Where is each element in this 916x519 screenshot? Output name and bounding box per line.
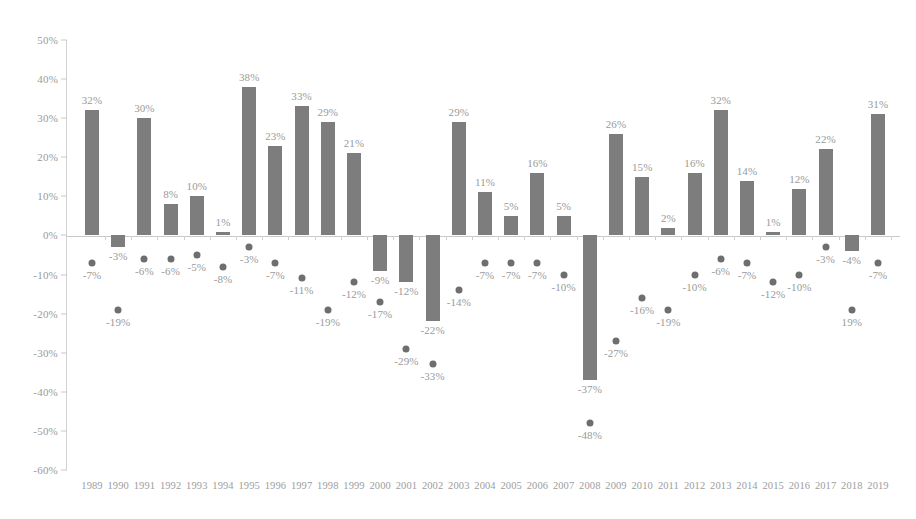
bar-label-1992: 8% <box>163 189 178 200</box>
y-axis-tick-label: -60% <box>33 465 58 476</box>
x-axis-tick-label-2011: 2011 <box>658 480 679 491</box>
bar-2008 <box>583 235 597 380</box>
x-axis-tick-mark <box>839 236 840 240</box>
x-axis-tick-label-1995: 1995 <box>238 480 259 491</box>
bar-label-1994: 1% <box>216 217 231 228</box>
x-axis-tick-label-2012: 2012 <box>684 480 705 491</box>
dot-2005 <box>508 259 515 266</box>
x-axis-tick-label-2019: 2019 <box>867 480 888 491</box>
x-axis-tick-mark <box>341 236 342 240</box>
dot-2009 <box>613 338 620 345</box>
dot-2007 <box>560 271 567 278</box>
bar-label-1996: 23% <box>265 131 285 142</box>
bar-2001 <box>399 235 413 282</box>
bar-label-2013: 32% <box>711 95 731 106</box>
dot-label-2002: -33% <box>420 371 444 382</box>
plot-area <box>66 40 900 470</box>
y-axis-tick-label: -50% <box>33 425 58 436</box>
bar-label-2004: 11% <box>475 177 495 188</box>
bar-1997 <box>295 106 309 235</box>
dot-2012 <box>691 271 698 278</box>
x-axis-tick-mark <box>419 236 420 240</box>
dot-2001 <box>403 345 410 352</box>
x-axis-tick-label-1990: 1990 <box>107 480 128 491</box>
y-axis-tick-label: -30% <box>33 347 58 358</box>
bar-label-2000: -9% <box>371 275 390 286</box>
x-axis-tick-mark <box>524 236 525 240</box>
x-axis-tick-mark <box>550 236 551 240</box>
x-axis-tick-label-1997: 1997 <box>291 480 312 491</box>
bar-label-1998: 29% <box>318 107 338 118</box>
bar-label-2015: 1% <box>766 217 781 228</box>
y-axis-tick-mark <box>61 391 67 392</box>
y-axis-tick-mark <box>61 313 67 314</box>
x-axis-tick-mark <box>105 236 106 240</box>
y-axis-tick-mark <box>61 40 67 41</box>
x-axis-tick-label-1998: 1998 <box>317 480 338 491</box>
x-axis-tick-label-2009: 2009 <box>605 480 626 491</box>
y-axis-tick-mark <box>61 157 67 158</box>
chart-container: 50%40%30%20%10%0%-10%-20%-30%-40%-50%-60… <box>0 0 916 519</box>
dot-label-1990: -19% <box>106 317 130 328</box>
dot-1996 <box>272 259 279 266</box>
bar-1989 <box>85 110 99 235</box>
dot-2016 <box>796 271 803 278</box>
bar-label-1997: 33% <box>291 91 311 102</box>
x-axis-tick-label-1991: 1991 <box>134 480 155 491</box>
dot-2011 <box>665 306 672 313</box>
x-axis-tick-label-1994: 1994 <box>212 480 233 491</box>
x-axis-tick-mark <box>734 236 735 240</box>
x-axis-tick-label-2013: 2013 <box>710 480 731 491</box>
dot-label-2013: -6% <box>711 266 730 277</box>
dot-label-2005: -7% <box>502 270 521 281</box>
bar-2017 <box>819 149 833 235</box>
dot-label-2001: -29% <box>394 356 418 367</box>
dot-2018 <box>848 306 855 313</box>
bar-2005 <box>504 216 518 236</box>
dot-label-2007: -10% <box>551 282 575 293</box>
bar-label-2012: 16% <box>684 158 704 169</box>
y-axis-tick-mark <box>61 196 67 197</box>
dot-2002 <box>429 361 436 368</box>
x-axis-tick-label-2014: 2014 <box>736 480 757 491</box>
bar-1993 <box>190 196 204 235</box>
bar-2015 <box>766 232 780 236</box>
x-axis-tick-label-2003: 2003 <box>448 480 469 491</box>
y-axis-labels: 50%40%30%20%10%0%-10%-20%-30%-40%-50%-60… <box>0 0 58 519</box>
x-axis-tick-mark <box>865 236 866 240</box>
x-axis-tick-mark <box>131 236 132 240</box>
dot-2017 <box>822 244 829 251</box>
bar-2010 <box>635 177 649 236</box>
bar-2012 <box>688 173 702 236</box>
x-axis-tick-label-1993: 1993 <box>186 480 207 491</box>
dot-label-2011: -19% <box>656 317 680 328</box>
bar-label-2008: -37% <box>578 384 602 395</box>
x-axis-tick-label-1999: 1999 <box>343 480 364 491</box>
x-axis-tick-label-2008: 2008 <box>579 480 600 491</box>
x-axis-tick-label-1996: 1996 <box>265 480 286 491</box>
bar-1996 <box>268 146 282 236</box>
bar-1995 <box>242 87 256 236</box>
x-axis-tick-label-2006: 2006 <box>527 480 548 491</box>
dot-1998 <box>324 306 331 313</box>
bar-1998 <box>321 122 335 235</box>
bar-1994 <box>216 232 230 236</box>
dot-label-1996: -7% <box>266 270 285 281</box>
x-axis-tick-mark <box>786 236 787 240</box>
x-axis-tick-label-2005: 2005 <box>500 480 521 491</box>
dot-2010 <box>639 295 646 302</box>
dot-1994 <box>220 263 227 270</box>
x-axis-tick-label-2015: 2015 <box>762 480 783 491</box>
x-axis-tick-mark <box>288 236 289 240</box>
x-axis-tick-mark <box>236 236 237 240</box>
y-axis-tick-mark <box>61 79 67 80</box>
y-axis-tick-mark <box>61 118 67 119</box>
x-axis-tick-mark <box>655 236 656 240</box>
x-axis-tick-label-2017: 2017 <box>815 480 836 491</box>
bar-label-2003: 29% <box>449 107 469 118</box>
dot-label-2009: -27% <box>604 348 628 359</box>
bar-label-1999: 21% <box>344 138 364 149</box>
bar-label-1989: 32% <box>82 95 102 106</box>
x-axis-tick-mark <box>157 236 158 240</box>
dot-label-1994: -8% <box>214 274 233 285</box>
